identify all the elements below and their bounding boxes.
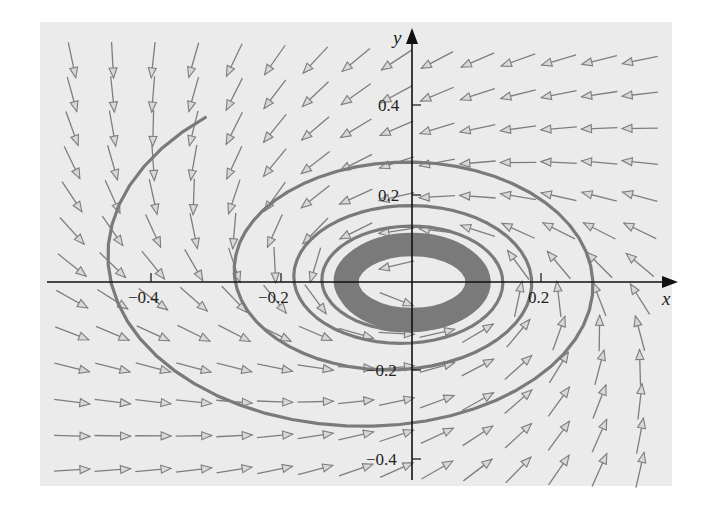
y-axis-label: y [391, 27, 402, 48]
y-tick-label: −0.4 [366, 450, 397, 469]
x-tick-label: −0.4 [128, 288, 159, 307]
vector-field-plot: x y −0.4 −0.2 0.2 0.4 0.2 −0.2 −0.4 [0, 0, 705, 512]
x-axis-label: x [661, 288, 671, 309]
x-tick-label: −0.2 [258, 288, 289, 307]
x-tick-label: 0.2 [528, 288, 549, 307]
y-tick-label: −0.2 [366, 361, 397, 380]
y-tick-label: 0.4 [378, 96, 400, 115]
y-tick-label: 0.2 [378, 186, 399, 205]
